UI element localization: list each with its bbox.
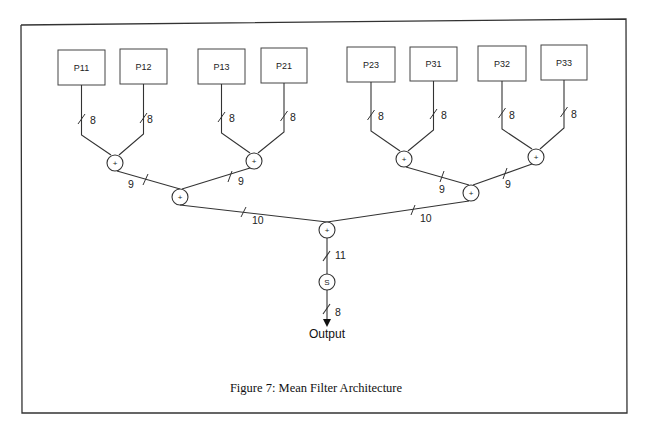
arrow-down-icon [323,319,331,327]
svg-text:8: 8 [147,113,153,125]
input-box-p12: P12 [120,49,167,84]
figure-frame [21,19,627,413]
bus-width-markers-level1 [143,168,507,185]
svg-text:9: 9 [439,183,445,195]
adder-l1-b: + [246,153,262,169]
input-box-p32: P32 [478,46,526,81]
svg-text:9: 9 [505,178,511,190]
mean-filter-diagram: P11 P12 P13 P21 P23 P31 P32 P33 [0,0,645,432]
input-box-p21: P21 [261,48,307,83]
adder-l1-d: + [528,149,544,165]
input-box-p11: P11 [58,50,105,85]
adder-l2-right: + [463,185,479,201]
input-box-p13: P13 [198,49,245,84]
input-label: P31 [425,59,441,69]
input-label: P32 [494,59,510,69]
svg-text:+: + [113,159,118,168]
bus-width-label-final: 11 [335,249,346,261]
bus-width-labels-level2: 10 10 [252,212,432,226]
svg-text:8: 8 [571,108,577,120]
svg-text:+: + [252,157,257,166]
shifter-node: S [319,274,335,290]
svg-text:+: + [178,193,183,202]
wire-shifter-to-output [323,290,330,320]
input-label: P33 [556,58,572,68]
svg-text:8: 8 [509,109,515,121]
svg-text:8: 8 [290,111,296,123]
svg-text:+: + [469,189,474,198]
input-box-p33: P33 [541,45,587,80]
wires-level0 [82,80,565,155]
adder-l1-a: + [107,155,123,171]
svg-text:+: + [402,155,407,164]
adder-final: + [319,222,335,238]
adder-l1-c: + [396,151,412,167]
figure-caption: Figure 7: Mean Filter Architecture [230,381,403,395]
input-box-p31: P31 [410,47,457,81]
svg-text:8: 8 [441,109,447,121]
input-label: P12 [135,62,151,72]
input-label: P23 [363,60,379,70]
input-label: P13 [213,62,229,72]
input-label: P11 [74,63,89,73]
wire-final-to-shifter [323,238,330,274]
bus-width-label-output: 8 [335,306,341,318]
svg-text:+: + [325,226,330,235]
svg-text:8: 8 [90,114,96,126]
input-box-p23: P23 [347,47,395,82]
adder-l2-left: + [172,189,188,205]
svg-text:10: 10 [252,214,264,226]
svg-text:+: + [534,153,539,162]
output-label: Output [309,327,346,341]
input-label: P21 [276,61,292,71]
svg-text:9: 9 [238,175,244,187]
svg-text:S: S [324,278,329,287]
svg-text:8: 8 [229,112,235,124]
svg-text:8: 8 [378,110,384,122]
svg-text:9: 9 [128,178,134,190]
svg-text:10: 10 [420,212,432,224]
